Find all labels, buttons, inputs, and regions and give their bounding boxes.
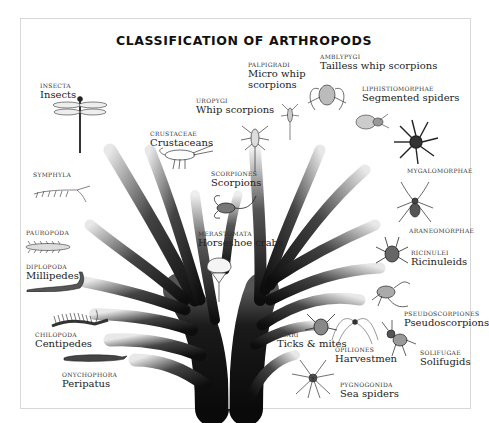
label-symphyla: SYMPHYLA — [33, 172, 71, 178]
scientific-name: MYGALOMORPHAE — [407, 168, 473, 174]
segmented-spider-icon — [350, 110, 390, 132]
label-pseudoscorpiones: PSEUDOSCORPIONES Pseudoscorpions — [404, 311, 489, 329]
label-amblypygi: AMBLYPYGI Tailless whip scorpions — [320, 54, 437, 72]
common-name: Sea spiders — [340, 389, 399, 400]
common-name: Ticks & mites — [277, 339, 347, 350]
label-crustaceae: CRUSTACEAE Crustaceans — [150, 131, 213, 149]
whip-scorpion-icon — [240, 118, 270, 173]
label-uropygi: UROPYGI Whip scorpions — [196, 98, 274, 116]
tailless-whip-scorpion-icon — [305, 75, 350, 115]
common-name: Horseshoe crabs — [198, 238, 283, 249]
label-pauropoda: PAUROPODA — [26, 230, 69, 236]
centipede-icon — [50, 310, 110, 332]
label-mygalomorphae: MYGALOMORPHAE — [407, 168, 473, 174]
common-name: Insects — [40, 90, 76, 101]
label-palpigradi: PALPIGRADI Micro whip scorpions — [248, 62, 306, 90]
common-name: Centipedes — [35, 339, 92, 350]
horseshoe-crab-icon — [205, 253, 233, 303]
dragonfly-icon — [50, 95, 110, 155]
ricinuleid-icon — [375, 235, 409, 269]
peripatus-icon — [62, 352, 128, 364]
label-chilopoda: CHILOPODA Centipedes — [35, 332, 92, 350]
common-name: Solifugids — [420, 357, 471, 368]
symphylan-icon — [32, 182, 92, 202]
common-name: Whip scorpions — [196, 105, 274, 116]
scientific-name: SYMPHYLA — [33, 172, 71, 178]
spider-icon — [395, 180, 435, 230]
common-name: Pseudoscorpions — [404, 318, 489, 329]
common-name: Peripatus — [62, 379, 117, 390]
common-name: Crustaceans — [150, 138, 213, 149]
label-liphistiomorphae: LIPHISTIOMORPHAE Segmented spiders — [362, 86, 460, 104]
sea-spider-icon — [290, 358, 336, 398]
label-scorpiones: SCORPIONES Scorpions — [211, 171, 261, 189]
common-name: Tailless whip scorpions — [320, 61, 437, 72]
label-araneomorphae: ARANEOMORPHAE — [409, 228, 474, 234]
label-ricinulei: RICINULEI Ricinuleids — [411, 250, 467, 268]
common-name: Scorpions — [211, 178, 261, 189]
pauropod-icon — [24, 240, 72, 254]
scorpion-icon — [210, 192, 260, 220]
tarantula-icon — [392, 118, 440, 166]
common-name: Millipedes — [26, 271, 79, 282]
pseudoscorpion-icon — [368, 278, 413, 312]
label-merastomata: MERASTOMATA Horseshoe crabs — [198, 231, 283, 249]
common-name: Segmented spiders — [362, 93, 460, 104]
common-name-line2: scorpions — [248, 80, 306, 91]
label-acari: ACARI Ticks & mites — [277, 332, 347, 350]
label-solifugae: SOLIFUGAE Solifugids — [420, 350, 471, 368]
label-diplopoda: DIPLOPODA Millipedes — [26, 264, 79, 282]
micro-whip-scorpion-icon — [280, 100, 300, 142]
common-name: Harvestmen — [335, 354, 397, 365]
scientific-name: ARANEOMORPHAE — [409, 228, 474, 234]
label-onychophora: ONYCHOPHORA Peripatus — [62, 372, 117, 390]
label-insecta: INSECTA Insects — [40, 83, 76, 101]
common-name: Ricinuleids — [411, 257, 467, 268]
label-pygnogonida: PYGNOGONIDA Sea spiders — [340, 382, 399, 400]
scientific-name: PAUROPODA — [26, 230, 69, 236]
